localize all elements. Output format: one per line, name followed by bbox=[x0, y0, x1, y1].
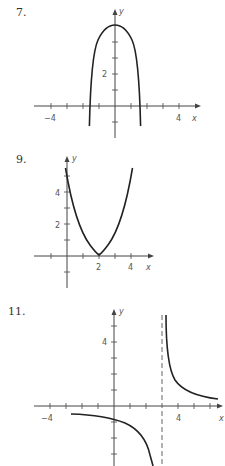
x-tick-label: 2 bbox=[96, 263, 101, 272]
x-tick-label: 4 bbox=[176, 414, 181, 423]
x-axis-label: x bbox=[145, 263, 151, 272]
x-tick-label: −4 bbox=[41, 414, 53, 423]
y-axis-arrow bbox=[112, 309, 117, 315]
graphs-canvas: −4 4 2 x y 2 4 2 4 x y bbox=[0, 0, 225, 466]
right-branch-curve bbox=[166, 315, 218, 399]
x-axis-arrow bbox=[195, 104, 201, 109]
y-tick-label: 4 bbox=[55, 189, 60, 198]
x-axis-arrow bbox=[148, 254, 154, 259]
x-tick-label: −4 bbox=[44, 114, 56, 123]
y-axis-arrow bbox=[113, 9, 118, 15]
x-axis-arrow bbox=[217, 404, 223, 409]
graph-11 bbox=[34, 309, 223, 466]
y-axis-label: y bbox=[118, 7, 124, 16]
y-axis-arrow bbox=[65, 156, 70, 162]
y-tick-label: 2 bbox=[55, 221, 60, 230]
x-axis-label: x bbox=[191, 114, 197, 123]
x-tick-label: 4 bbox=[176, 114, 181, 123]
x-tick-label: 4 bbox=[128, 263, 133, 272]
graph-9 bbox=[34, 156, 154, 288]
y-axis-label: y bbox=[118, 307, 124, 316]
y-axis-label: y bbox=[71, 154, 77, 163]
y-tick-label: 2 bbox=[102, 70, 107, 79]
y-tick-label: 4 bbox=[102, 338, 107, 347]
x-axis-label: x bbox=[218, 414, 224, 423]
parabola-curve bbox=[66, 168, 133, 255]
